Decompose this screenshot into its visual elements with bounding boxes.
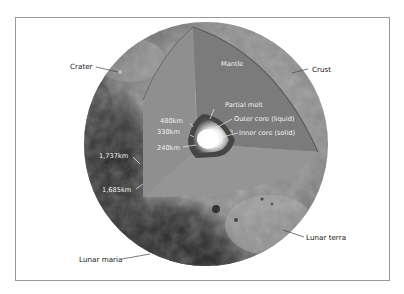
label-mantle: Mantle <box>221 60 243 68</box>
label-lunar-terra: Lunar terra <box>306 233 346 242</box>
label-inner-core: Inner core (solid) <box>239 129 295 137</box>
label-radius-480km: 480km <box>160 117 183 125</box>
label-crater: Crater <box>70 62 93 71</box>
label-radius-330km: 330km <box>157 128 180 136</box>
cutaway-wedge <box>143 27 318 197</box>
moon-cutaway-diagram: Crater Crust Lunar maria Lunar terra Man… <box>0 0 404 294</box>
label-outer-core: Outer core (liquid) <box>234 115 294 123</box>
inner-core <box>197 129 219 149</box>
label-radius-1737km: 1,737km <box>99 152 128 160</box>
label-partial-melt: Partial melt <box>225 101 263 109</box>
label-radius-1685km: 1,685km <box>102 186 131 194</box>
label-radius-240km: 240km <box>157 144 180 152</box>
label-crust: Crust <box>312 65 331 74</box>
label-lunar-maria: Lunar maria <box>79 255 122 264</box>
